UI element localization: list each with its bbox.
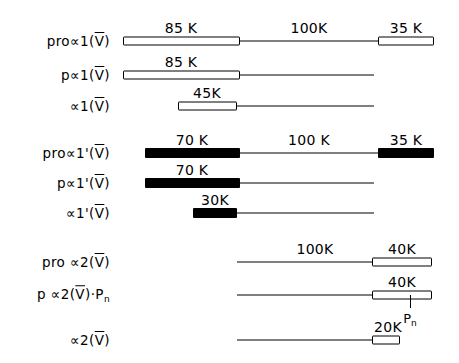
size-label-n-propeptide: 85 K <box>165 54 198 70</box>
chain-label-p-alpha1-prime-V: p∝1'(V) <box>57 175 110 191</box>
chain-label-pro-alpha1-V: pro∝1(V) <box>47 33 110 49</box>
collagen-chain-processing-diagram: pro∝1(V)85 K35 K100Kp∝1(V)85 K∝1(V)45Kpr… <box>0 0 459 363</box>
size-label-triple-helix: 100K <box>290 20 327 36</box>
pn-marker: Pn <box>403 311 417 328</box>
domain-block-c-propeptide <box>372 258 432 267</box>
chain-label-alpha2-V: ∝2(V) <box>70 332 110 348</box>
size-label-c-telopeptide: 20K <box>374 319 402 335</box>
size-label-n-propeptide: 70 K <box>176 132 209 148</box>
size-label-n-propeptide: 70 K <box>176 162 209 178</box>
chain-label-alpha1-V: ∝1(V) <box>70 98 110 114</box>
chain-label-p-alpha1-V: p∝1(V) <box>61 67 110 83</box>
domain-block-n-propeptide <box>145 148 240 158</box>
size-label-c-propeptide: 40K <box>388 241 416 257</box>
pn-tick <box>410 295 411 308</box>
chain-label-pro-alpha1-prime-V: pro∝1'(V) <box>43 145 110 161</box>
domain-block-c-propeptide <box>372 291 432 300</box>
size-label-n-telopeptide: 45K <box>193 85 221 101</box>
chain-label-p-alpha2-V-Pn: p ∝2(V)·Pn <box>37 286 110 304</box>
size-label-c-propeptide: 40K <box>388 274 416 290</box>
size-label-n-telopeptide: 30K <box>201 192 229 208</box>
chain-label-alpha1-prime-V: ∝1'(V) <box>66 205 110 221</box>
domain-block-n-propeptide <box>123 71 240 80</box>
domain-block-c-propeptide <box>378 37 434 46</box>
size-label-c-propeptide: 35 K <box>390 132 423 148</box>
domain-block-n-propeptide <box>145 178 240 188</box>
domain-block-n-telopeptide <box>193 208 237 218</box>
size-label-triple-helix: 100K <box>296 241 333 257</box>
size-label-n-propeptide: 85 K <box>165 20 198 36</box>
domain-block-n-propeptide <box>123 37 240 46</box>
domain-block-c-telopeptide <box>372 336 400 345</box>
domain-block-c-propeptide <box>378 148 434 158</box>
chain-label-pro-alpha2-V: pro ∝2(V) <box>42 254 110 270</box>
domain-block-n-telopeptide <box>178 102 237 111</box>
size-label-c-propeptide: 35 K <box>390 20 423 36</box>
size-label-triple-helix: 100 K <box>288 132 330 148</box>
